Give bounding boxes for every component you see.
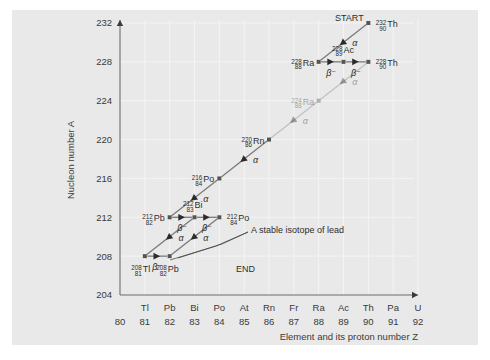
decay-symbol-beta: β⁻ [325,68,336,78]
decay-symbol-alpha: α [303,116,309,126]
x-tick-symbol: Pa [387,302,399,313]
nuclide-proton-number: 88 [295,63,303,70]
x-tick-number: 86 [264,316,275,327]
y-tick-label: 204 [96,289,112,300]
nuclide-marker [217,215,221,219]
nuclide-element-symbol: Th [387,58,398,68]
stable-isotope-annotation: A stable isotope of lead [170,225,344,260]
y-tick-label: 232 [96,17,112,28]
nuclide-element-symbol: Th [387,19,398,29]
x-tick-number: 87 [289,316,300,327]
nuclide-proton-number: 84 [195,180,203,187]
x-tick-symbol: U [415,302,422,313]
nuclide-marker [317,99,321,103]
x-tick-number: 83 [189,316,200,327]
x-tick-number: 84 [214,316,225,327]
x-axis-label: Element and its proton number Z [280,331,419,342]
decay-chain-chart: 232228224220216212208204 80Tl81Pb82Bi83P… [0,0,490,360]
x-tick-symbol: Tl [141,302,149,313]
nuclide-marker [193,215,197,219]
x-tick-number: 89 [338,316,349,327]
decay-symbol-alpha: α [203,194,209,204]
nuclide-element-symbol: Ra [303,97,315,107]
x-tick-symbol: At [240,302,249,313]
decay-arrowhead-beta [327,58,334,65]
nuclide-label-ra228: 22888Ra [291,58,314,71]
x-axis-arrowhead [412,292,418,298]
nuclide-element-symbol: Tl [143,264,151,274]
decay-arrowhead-beta [203,214,210,221]
nuclide-marker [342,60,346,64]
nuclide-element-symbol: Rn [253,136,265,146]
nuclide-marker [168,215,172,219]
nuclide-proton-number: 86 [245,141,253,148]
nuclide-proton-number: 83 [186,206,194,213]
x-tick-number: 88 [313,316,324,327]
x-tick-symbol: Ac [338,302,349,313]
nuclide-proton-number: 82 [146,219,154,226]
nuclide-marker [143,254,147,258]
nuclide-proton-number: 90 [379,25,387,32]
chart-svg: 232228224220216212208204 80Tl81Pb82Bi83P… [0,0,490,360]
nuclide-proton-number: 82 [160,270,168,277]
nuclide-proton-number: 81 [135,270,143,277]
nuclide-element-symbol: Bi [195,200,203,210]
x-tick-number: 85 [239,316,250,327]
nuclide-proton-number: 84 [230,219,238,226]
nuclide-element-symbol: Po [238,213,249,223]
nuclide-label-pb212: 21282Pb [142,213,165,226]
y-tick-label: 220 [96,134,112,145]
x-tick-number: 80 [115,316,126,327]
x-tick-symbol: Ra [313,302,326,313]
x-tick-symbol: Fr [289,302,298,313]
nuclide-element-symbol: Ra [303,58,315,68]
decay-symbols: αβ⁻β⁻ααααβ⁻β⁻ααβ⁻ [151,38,361,272]
nuclide-label-th228: 22890Th [376,58,398,71]
x-tick-number: 82 [164,316,175,327]
nuclide-proton-number: 90 [379,63,387,70]
x-tick-symbol: Pb [164,302,176,313]
y-tick-label: 224 [96,95,112,106]
nuclide-label-th232: 23290Th [376,19,398,32]
y-tick-label: 208 [96,251,112,262]
x-tick-symbol: Bi [190,302,198,313]
decay-arrowhead-beta [178,214,185,221]
x-tick-number: 90 [363,316,374,327]
x-axis-ticks: 80Tl81Pb82Bi83Po84At85Rn86Fr87Ra88Ac89Th… [115,302,424,327]
decay-arrowhead-beta [153,253,160,260]
nuclide-marker [366,60,370,64]
decay-symbol-alpha: α [253,155,259,165]
gridlines [120,20,418,295]
y-axis-label: Nucleon number A [65,120,76,199]
nuclide-label-pb208: 20882Pb [156,264,179,277]
nuclide-marker [317,60,321,64]
y-tick-label: 228 [96,56,112,67]
nuclide-element-symbol: Ac [344,45,355,55]
x-tick-symbol: Po [214,302,226,313]
x-tick-number: 81 [140,316,151,327]
x-tick-symbol: Th [363,302,374,313]
y-tick-label: 216 [96,173,112,184]
x-tick-number: 91 [388,316,399,327]
nuclide-element-symbol: Pb [154,213,165,223]
decay-symbol-alpha: α [178,233,184,243]
x-tick-number: 92 [413,316,424,327]
nuclide-proton-number: 88 [295,102,303,109]
nuclide-marker [217,176,221,180]
nuclide-element-symbol: Pb [168,264,179,274]
end-label: END [236,264,256,274]
nuclide-proton-number: 89 [335,50,343,57]
nuclide-label-bi212: 21283Bi [183,200,203,213]
nuclide-marker [267,138,271,142]
nuclide-element-symbol: Po [203,174,214,184]
decay-arrowhead-beta [352,58,359,65]
nuclide-label-po212: 21284Po [227,213,250,226]
nuclide-marker [366,21,370,25]
y-tick-label: 212 [96,212,112,223]
nuclide-marker [168,254,172,258]
y-axis-ticks: 232228224220216212208204 [96,17,112,300]
decay-symbol-alpha: α [203,233,209,243]
start-label: START [335,13,364,23]
nuclide-label-tl208: 20881Tl [131,264,150,277]
decay-symbol-alpha: α [352,77,358,87]
